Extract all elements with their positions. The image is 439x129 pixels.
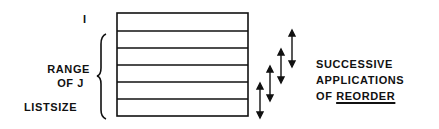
- arrow-up-icon: [278, 49, 284, 55]
- caption-line-3: OF REORDER: [316, 90, 395, 102]
- arrow-up-icon: [289, 30, 295, 36]
- label-range: RANGE: [40, 63, 90, 75]
- arrow-down-icon: [278, 77, 284, 83]
- caption-of: OF: [316, 90, 336, 102]
- caption-line-1: SUCCESSIVE: [316, 58, 393, 70]
- label-i: I: [83, 13, 87, 25]
- caption-reorder: REORDER: [336, 90, 395, 102]
- arrow-down-icon: [289, 61, 295, 67]
- label-listsize: LISTSIZE: [24, 101, 77, 113]
- range-brace-icon: [97, 34, 106, 119]
- reorder-diagram: I RANGE OF J LISTSIZE SUCCESSIVE APPLICA…: [0, 0, 439, 129]
- arrow-up-icon: [267, 66, 273, 72]
- arrow-up-icon: [257, 83, 263, 89]
- caption-line-2: APPLICATIONS: [316, 74, 404, 86]
- arrow-down-icon: [267, 95, 273, 101]
- arrow-down-icon: [257, 112, 263, 118]
- label-of-j: OF J: [40, 77, 84, 89]
- double-arrows: [257, 30, 295, 118]
